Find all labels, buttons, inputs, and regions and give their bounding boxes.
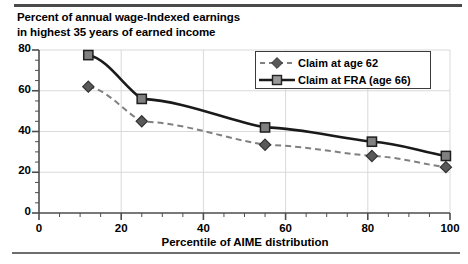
legend-label-claim-at-fra: Claim at FRA (age 66) — [298, 74, 411, 86]
y-tick-label: 0 — [3, 205, 31, 217]
chart-legend: Claim at age 62 Claim at FRA (age 66) — [255, 51, 431, 89]
x-tick-label: 100 — [433, 222, 467, 234]
data-point-marker — [441, 151, 450, 160]
data-point-marker — [84, 50, 93, 59]
x-tick-label: 40 — [186, 222, 220, 234]
y-tick-label: 40 — [3, 124, 31, 136]
x-tick-label: 80 — [351, 222, 385, 234]
data-point-marker — [136, 116, 147, 127]
chart-figure: Percent of annual wage-Indexed earnings … — [0, 0, 468, 264]
x-tick-label: 20 — [104, 222, 138, 234]
y-tick-label: 60 — [3, 83, 31, 95]
legend-label-claim-at-62: Claim at age 62 — [298, 57, 378, 69]
x-tick-label: 60 — [269, 222, 303, 234]
legend-item-claim-at-fra[interactable]: Claim at FRA (age 66) — [256, 70, 432, 89]
chart-canvas — [0, 0, 468, 264]
legend-swatch-solid-square — [256, 71, 298, 89]
legend-swatch-dashed-diamond — [256, 54, 298, 72]
y-tick-label: 80 — [3, 42, 31, 54]
y-tick-label: 20 — [3, 164, 31, 176]
x-axis-title: Percentile of AIME distribution — [39, 236, 451, 248]
data-point-marker — [137, 94, 146, 103]
x-tick-label: 0 — [22, 222, 56, 234]
data-point-marker — [367, 137, 376, 146]
data-point-marker — [260, 123, 269, 132]
plot-area: 806040200 020406080100 — [0, 0, 468, 264]
data-point-marker — [259, 139, 270, 150]
